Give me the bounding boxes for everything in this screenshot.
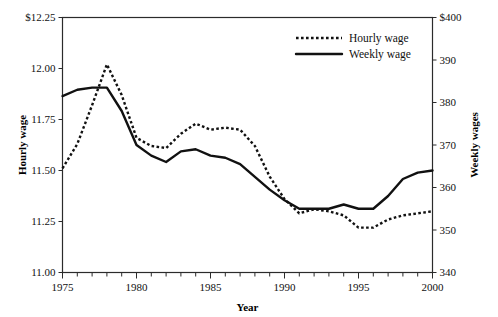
legend-label: Weekly wage bbox=[349, 48, 411, 61]
y2-axis-title: Weekly wages bbox=[468, 111, 480, 177]
right-tick-label: 370 bbox=[440, 139, 457, 151]
right-tick-label: 350 bbox=[440, 224, 457, 236]
legend-label: Hourly wage bbox=[349, 32, 409, 45]
left-tick-label: 11.25 bbox=[31, 215, 56, 227]
dual-axis-line-chart: 11.0011.2511.5011.7512.00$12.25 34035036… bbox=[0, 0, 498, 317]
right-tick-label: 360 bbox=[440, 181, 457, 193]
right-tick-label: $400 bbox=[440, 11, 463, 23]
x-tick-label: 2000 bbox=[422, 281, 445, 293]
x-tick-label: 1995 bbox=[348, 281, 371, 293]
left-tick-label: $12.25 bbox=[25, 11, 56, 23]
x-tick-label: 1985 bbox=[200, 281, 223, 293]
left-tick-label: 11.75 bbox=[31, 113, 56, 125]
left-tick-label: 11.50 bbox=[31, 164, 56, 176]
chart-page: 11.0011.2511.5011.7512.00$12.25 34035036… bbox=[0, 0, 498, 317]
y-axis-title: Hourly wage bbox=[16, 115, 28, 175]
right-tick-label: 340 bbox=[440, 266, 457, 278]
x-axis-title: Year bbox=[237, 301, 259, 313]
right-tick-label: 390 bbox=[440, 54, 457, 66]
x-tick-label: 1980 bbox=[126, 281, 149, 293]
left-tick-label: 11.00 bbox=[31, 266, 56, 278]
x-tick-label: 1975 bbox=[52, 281, 75, 293]
right-tick-label: 380 bbox=[440, 96, 457, 108]
chart-background bbox=[0, 0, 498, 317]
left-tick-label: 12.00 bbox=[31, 62, 56, 74]
x-tick-label: 1990 bbox=[274, 281, 297, 293]
